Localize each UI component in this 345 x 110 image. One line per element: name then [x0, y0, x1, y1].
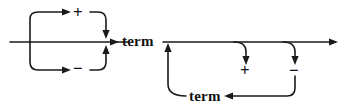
operator-minus-left: − — [73, 60, 83, 77]
arrow-right-icon — [62, 66, 71, 73]
arrow-right-icon — [329, 38, 338, 45]
operator-plus-left: + — [73, 4, 83, 21]
arrow-up-icon — [102, 45, 109, 54]
upper-branch-return — [90, 12, 106, 30]
plus-drop-branch — [234, 42, 246, 56]
operator-minus-right: − — [289, 62, 299, 79]
lower-branch-return — [90, 54, 106, 70]
arrow-right-icon — [110, 38, 119, 45]
railroad-svg — [0, 0, 345, 110]
arrow-down-icon — [102, 30, 109, 39]
upper-branch-line — [30, 12, 62, 42]
arrow-right-icon — [62, 8, 71, 15]
lower-branch-line — [30, 42, 62, 70]
minus-drop-branch — [283, 42, 295, 56]
terminal-term-loop: term — [189, 89, 221, 104]
operator-plus-right: + — [240, 62, 250, 79]
railroad-diagram: term term + − + − — [0, 0, 345, 110]
loop-riser-line — [168, 52, 186, 96]
arrow-up-icon — [164, 43, 171, 52]
arrow-left-icon — [224, 92, 233, 99]
terminal-term-main: term — [122, 34, 154, 49]
